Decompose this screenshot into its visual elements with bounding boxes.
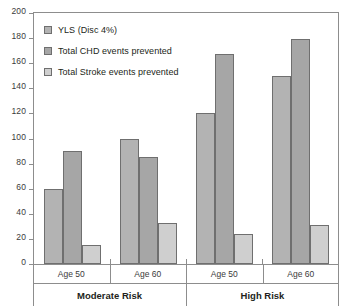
x-axis-category-label: Age 50 xyxy=(58,269,85,279)
x-axis-group-divider xyxy=(186,284,187,306)
x-axis-divider xyxy=(338,265,339,284)
x-axis-group-label: High Risk xyxy=(241,290,285,301)
legend-swatch-icon xyxy=(44,47,52,55)
bar xyxy=(215,54,234,264)
legend-swatch-icon xyxy=(44,68,52,76)
y-axis-tick-label: 140 xyxy=(12,81,26,91)
x-axis-divider xyxy=(33,265,34,284)
legend-item: Total Stroke events prevented xyxy=(44,63,254,81)
x-axis-tick-mark xyxy=(110,259,111,264)
legend-item: Total CHD events prevented xyxy=(44,42,254,60)
legend-swatch-icon xyxy=(44,26,52,34)
bar xyxy=(158,223,177,264)
bar xyxy=(234,234,253,264)
y-axis-tick-label: 80 xyxy=(16,157,26,167)
x-axis-category-label: Age 60 xyxy=(134,269,161,279)
x-axis-group-divider xyxy=(33,284,34,306)
x-axis-category-cell: Age 50 xyxy=(186,265,263,283)
x-axis-group-cell: Moderate Risk xyxy=(33,284,186,306)
x-axis-tick-mark xyxy=(186,259,187,264)
y-axis-tick-label: 160 xyxy=(12,56,26,66)
bar-chart-figure: 020406080100120140160180200 YLS (Disc 4%… xyxy=(0,0,348,308)
bar xyxy=(272,76,291,264)
chart-legend: YLS (Disc 4%)Total CHD events preventedT… xyxy=(44,21,254,84)
legend-item-label: Total Stroke events prevented xyxy=(58,67,179,77)
legend-item: YLS (Disc 4%) xyxy=(44,21,254,39)
y-axis-tick-label: 120 xyxy=(12,106,26,116)
bar xyxy=(196,113,215,264)
bar xyxy=(44,189,63,264)
bar-group xyxy=(262,13,338,264)
bar xyxy=(82,245,101,264)
y-axis-tick-label: 60 xyxy=(16,182,26,192)
y-axis: 020406080100120140160180200 xyxy=(0,12,33,265)
x-axis-category-row: Age 50Age 60Age 50Age 60 xyxy=(33,265,339,284)
x-axis-divider xyxy=(186,265,187,284)
x-axis-divider xyxy=(110,265,111,284)
legend-item-label: Total CHD events prevented xyxy=(58,46,172,56)
x-axis-group-label: Moderate Risk xyxy=(77,290,142,301)
y-axis-tick-label: 180 xyxy=(12,31,26,41)
x-axis-category-cell: Age 50 xyxy=(33,265,110,283)
bar xyxy=(310,225,329,264)
x-axis-group-divider xyxy=(338,284,339,306)
x-axis-category-cell: Age 60 xyxy=(110,265,187,283)
x-axis-group-cell: High Risk xyxy=(186,284,339,306)
y-axis-tick-label: 100 xyxy=(12,132,26,142)
bar xyxy=(291,39,310,264)
bar xyxy=(139,157,158,264)
x-axis-divider xyxy=(263,265,264,284)
y-axis-tick-label: 200 xyxy=(12,6,26,16)
x-axis-category-label: Age 60 xyxy=(287,269,314,279)
x-axis-tick-mark xyxy=(262,259,263,264)
y-axis-tick-label: 40 xyxy=(16,207,26,217)
legend-item-label: YLS (Disc 4%) xyxy=(58,25,117,35)
x-axis-group-row: Moderate RiskHigh Risk xyxy=(33,284,339,306)
bar xyxy=(120,139,139,265)
y-axis-tick-label: 0 xyxy=(21,257,26,267)
bar xyxy=(63,151,82,264)
x-axis-category-label: Age 50 xyxy=(211,269,238,279)
y-axis-tick-label: 20 xyxy=(16,232,26,242)
x-axis-category-cell: Age 60 xyxy=(263,265,340,283)
